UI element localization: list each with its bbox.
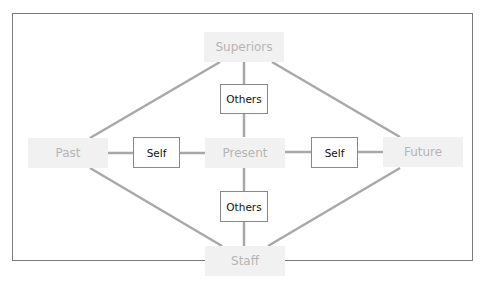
node-present-label: Present [222, 146, 267, 160]
node-future: Future [383, 137, 463, 167]
edge-label-text: Self [147, 147, 167, 159]
edge-label-top-others: Others [220, 84, 268, 114]
node-staff-label: Staff [231, 254, 259, 268]
line-superiors-past [90, 62, 220, 138]
node-staff: Staff [205, 246, 285, 276]
line-superiors-future [272, 62, 400, 137]
node-superiors: Superiors [204, 32, 284, 62]
node-past-label: Past [55, 146, 80, 160]
edge-label-text: Self [325, 147, 345, 159]
node-superiors-label: Superiors [215, 40, 272, 54]
edge-label-right-self: Self [311, 137, 358, 168]
line-past-staff [90, 168, 222, 246]
node-past: Past [28, 138, 108, 168]
node-present: Present [205, 138, 285, 168]
edge-label-left-self: Self [133, 137, 180, 168]
edge-label-text: Others [226, 201, 261, 213]
edge-label-bottom-others: Others [220, 191, 268, 222]
edge-label-text: Others [226, 93, 261, 105]
line-future-staff [268, 168, 400, 246]
node-future-label: Future [404, 145, 442, 159]
